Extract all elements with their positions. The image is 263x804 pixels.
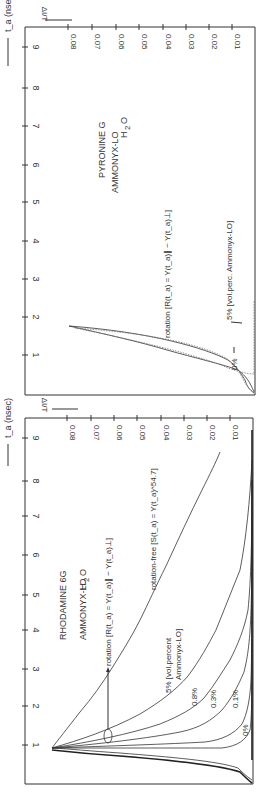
svg-text:4: 4 — [31, 238, 41, 243]
svg-text:6: 6 — [31, 552, 41, 557]
svg-text:0.04: 0.04 — [164, 34, 173, 50]
svg-text:H: H — [119, 132, 129, 139]
bottom-signal-axis-title: ΔI/T — [40, 398, 78, 413]
top-time-axis-title: t_a (nsec) — [3, 0, 13, 66]
concentration-label-2: Ammonyx-LO] — [174, 629, 183, 680]
svg-text:2: 2 — [31, 314, 41, 319]
svg-text:O: O — [78, 569, 88, 576]
solvent-label: H 2 O — [119, 117, 132, 138]
rotation-free-formula: rotation-free [S(t_a) = Y(t_a)^54.7] — [149, 468, 158, 590]
svg-text:5: 5 — [31, 199, 41, 204]
arrow-up-icon — [106, 667, 110, 672]
svg-text:8: 8 — [31, 85, 41, 90]
svg-text:0.08: 0.08 — [69, 34, 78, 50]
sample-name: RHODAMINE 6G — [58, 570, 68, 640]
pointer-line — [231, 322, 242, 323]
concentration-label: 5% [vol.percent — [164, 637, 173, 693]
rotation-marker-ellipse — [104, 729, 112, 743]
svg-text:0.04: 0.04 — [162, 425, 171, 441]
sample-name: PYRONINE G — [97, 121, 107, 178]
curve-0-percent — [69, 326, 254, 393]
svg-text:O: O — [119, 117, 129, 124]
svg-text:9: 9 — [31, 44, 41, 49]
svg-text:6: 6 — [31, 162, 41, 167]
bottom-annotations: RHODAMINE 6G AMMONYX-LO H 2 O rotation [… — [58, 468, 250, 736]
svg-text:0.05: 0.05 — [140, 34, 149, 50]
svg-text:2: 2 — [31, 703, 41, 708]
svg-text:1: 1 — [31, 742, 41, 747]
svg-text:0.05: 0.05 — [138, 425, 147, 441]
label-0.3-percent: 0.3% — [209, 690, 218, 708]
svg-text:0.02: 0.02 — [208, 425, 217, 441]
svg-text:2: 2 — [123, 125, 132, 130]
svg-text:t_a (nsec): t_a (nsec) — [3, 398, 13, 438]
svg-text:9: 9 — [31, 435, 41, 440]
svg-text:0.01: 0.01 — [233, 34, 242, 50]
svg-text:0.08: 0.08 — [68, 425, 77, 441]
svg-text:7: 7 — [31, 123, 41, 128]
svg-text:0.07: 0.07 — [92, 425, 101, 441]
top-panel: 1 2 3 4 5 6 7 8 9 t_a (nsec) 0.08 — [3, 0, 255, 395]
svg-text:0.07: 0.07 — [93, 34, 102, 50]
top-time-tick-labels: 1 2 3 4 5 6 7 8 9 — [31, 44, 41, 357]
svg-text:4: 4 — [31, 627, 41, 632]
label-0.1-percent: 0.1% — [231, 690, 240, 708]
svg-text:H: H — [78, 584, 88, 591]
svg-text:2: 2 — [82, 577, 91, 582]
svg-text:0.03: 0.03 — [187, 34, 196, 50]
svg-text:7: 7 — [31, 513, 41, 518]
svg-text:0.01: 0.01 — [231, 425, 240, 441]
svg-text:t_a (nsec): t_a (nsec) — [3, 0, 13, 32]
svg-text:3: 3 — [31, 666, 41, 671]
surfactant-name: AMMONYX-LO — [110, 131, 120, 193]
svg-text:0.06: 0.06 — [115, 425, 124, 441]
svg-text:1: 1 — [31, 352, 41, 357]
svg-text:0.03: 0.03 — [185, 425, 194, 441]
svg-text:0.06: 0.06 — [117, 34, 126, 50]
top-signal-axis-title: ΔI/T — [40, 7, 72, 22]
svg-text:3: 3 — [31, 276, 41, 281]
top-signal-tick-labels: 0.08 0.07 0.06 0.05 0.04 0.03 0.02 0.01 — [69, 34, 242, 50]
label-0-percent: 0% — [241, 724, 250, 736]
svg-text:0.02: 0.02 — [210, 34, 219, 50]
bottom-time-tick-labels: 1 2 3 4 5 6 7 8 9 — [31, 435, 41, 747]
top-annotations: PYRONINE G AMMONYX-LO H 2 O rotation [R(… — [97, 117, 242, 370]
label-0.8-percent: 0.8% — [190, 688, 199, 706]
curve-rise — [52, 750, 252, 783]
rotation-formula: rotation [R(t_a) = Y(t_a)∥ − Y(t_a)⊥] — [104, 538, 113, 666]
svg-text:ΔI/T: ΔI/T — [40, 7, 49, 22]
rotation-formula: rotation [R(t_a) = Y(t_a)∥ − Y(t_a)⊥] — [163, 210, 172, 338]
figure: 1 2 3 4 5 6 7 8 9 t_a (nsec) 0.08 — [0, 0, 263, 804]
zero-percent-label: 0% — [230, 358, 239, 370]
svg-text:ΔI/T: ΔI/T — [40, 398, 49, 413]
bottom-time-axis-title: t_a (nsec) — [3, 398, 13, 466]
top-panel-frame — [25, 27, 255, 395]
bottom-signal-tick-labels: 0.08 0.07 0.06 0.05 0.04 0.03 0.02 0.01 — [68, 425, 240, 441]
bottom-panel: 1 2 3 4 5 6 7 8 9 t_a (nsec) 0.08 0.07 — [3, 398, 253, 784]
svg-text:5: 5 — [31, 592, 41, 597]
concentration-label: 5% [vol.perc. Ammonyx-LO] — [225, 221, 234, 320]
svg-text:8: 8 — [31, 478, 41, 483]
curve-0-percent — [52, 640, 252, 748]
